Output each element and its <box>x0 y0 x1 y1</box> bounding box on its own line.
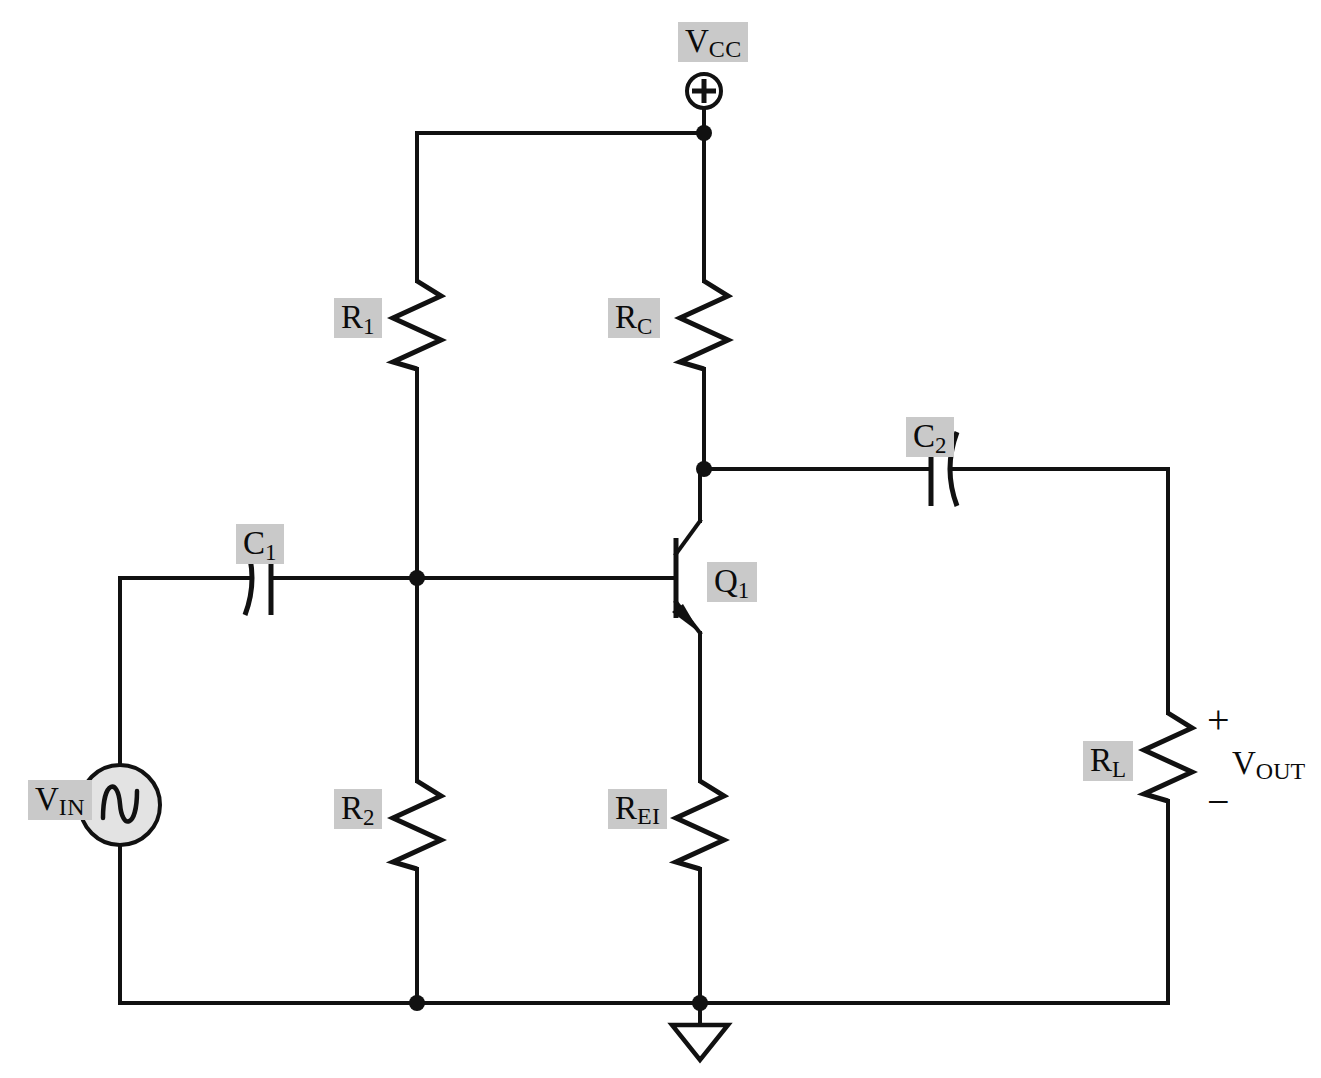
resistor-rei-symbol <box>676 781 724 869</box>
supply-terminal-symbol <box>687 74 721 108</box>
transistor-q1-symbol <box>672 538 700 633</box>
label-rc-base: R <box>615 299 637 335</box>
label-rc: RC <box>608 298 660 338</box>
junction-bottom-left <box>409 995 425 1011</box>
ground-triangle <box>672 1025 728 1060</box>
junction-ground <box>692 995 708 1011</box>
label-rl: RL <box>1083 741 1133 781</box>
label-rei-sub: EI <box>637 803 660 829</box>
junction-dots <box>409 125 712 1011</box>
label-vcc: VCC <box>678 22 748 62</box>
label-q1-base: Q <box>714 563 738 599</box>
label-vout: VOUT <box>1232 747 1305 780</box>
label-c2: C2 <box>906 417 954 457</box>
ground-symbol <box>672 1025 728 1060</box>
label-r2-sub: 2 <box>363 805 375 830</box>
junction-base <box>409 570 425 586</box>
label-rei-base: R <box>615 790 637 826</box>
label-c2-base: C <box>913 418 935 454</box>
label-vin-base: V <box>35 781 59 817</box>
label-vcc-base: V <box>685 23 709 59</box>
label-r2: R2 <box>334 789 382 829</box>
capacitor-symbols <box>245 432 957 615</box>
label-rc-sub: C <box>637 314 653 339</box>
label-c1-base: C <box>243 525 265 561</box>
label-rei: REI <box>608 789 667 829</box>
resistor-rc-symbol <box>680 281 728 369</box>
label-r2-base: R <box>341 790 363 826</box>
vout-plus-sign: + <box>1207 700 1230 740</box>
label-r1-sub: 1 <box>363 314 375 339</box>
label-rl-sub: L <box>1112 757 1126 782</box>
ac-source-vin-symbol <box>80 765 160 845</box>
label-vin: VIN <box>28 780 92 820</box>
label-c1: C1 <box>236 524 284 564</box>
label-r1: R1 <box>334 298 382 338</box>
vout-minus-sign: − <box>1207 782 1230 822</box>
label-rl-base: R <box>1090 742 1112 778</box>
label-q1: Q1 <box>707 562 757 602</box>
label-r1-base: R <box>341 299 363 335</box>
label-vin-sub: IN <box>59 794 85 820</box>
label-q1-sub: 1 <box>738 578 750 603</box>
circuit-diagram: VCC R1 RC C1 C2 Q1 R2 REI RL VIN + VOUT … <box>0 0 1321 1078</box>
label-vout-sub: OUT <box>1256 758 1305 784</box>
resistor-r2-symbol <box>393 781 441 869</box>
wire-collector-lead <box>676 521 700 554</box>
resistor-r1-symbol <box>393 281 441 369</box>
wires <box>120 107 1168 1025</box>
label-c1-sub: 1 <box>265 540 277 565</box>
junction-collector <box>696 461 712 477</box>
label-c2-sub: 2 <box>935 433 947 458</box>
resistor-rl-symbol <box>1144 713 1192 801</box>
schematic-canvas <box>0 0 1321 1078</box>
junction-vcc <box>696 125 712 141</box>
label-vcc-sub: CC <box>709 36 742 62</box>
label-vout-base: V <box>1232 745 1256 781</box>
resistor-symbols <box>393 281 1192 869</box>
